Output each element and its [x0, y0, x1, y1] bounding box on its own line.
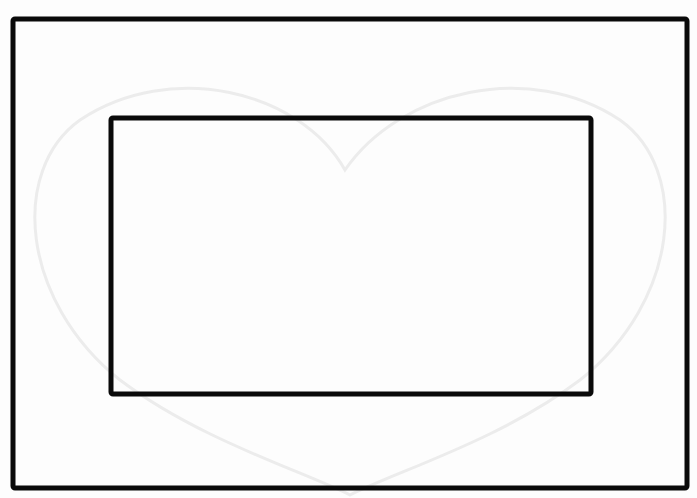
outer-rectangle	[13, 19, 687, 488]
line-drawing	[0, 0, 697, 498]
inner-rectangle	[111, 118, 591, 394]
drawing-canvas	[0, 0, 697, 498]
heart-watermark-icon	[35, 88, 665, 495]
